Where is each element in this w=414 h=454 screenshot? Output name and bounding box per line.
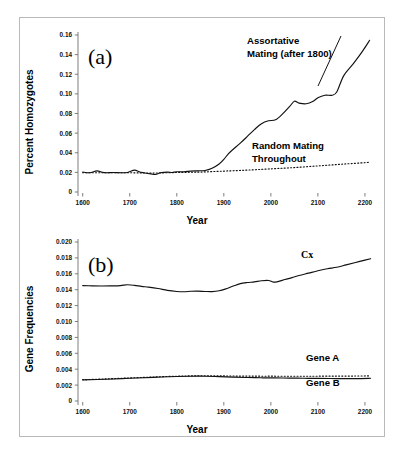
y-tick-label: 0.12 <box>60 71 73 78</box>
series-label-cx: Cx <box>301 249 313 260</box>
panel-a-annotation-random: Random Mating Throughout <box>252 140 324 164</box>
x-tick-label: 2000 <box>264 408 279 415</box>
annotation-line-2: Throughout <box>252 153 307 164</box>
x-tick-label: 1600 <box>76 199 91 206</box>
y-axis-tick-labels: 00.020.040.060.080.100.120.140.16 <box>60 31 73 195</box>
panel-a-annotation-assortative: Assortative Mating (after 1800) <box>247 35 332 59</box>
x-tick-label: 1800 <box>170 408 185 415</box>
y-tick-label: 0.06 <box>60 130 73 137</box>
annotation-line-1: Random Mating <box>252 140 324 151</box>
y-tick-label: 0.006 <box>56 350 72 357</box>
y-tick-label: 0.016 <box>56 270 72 277</box>
panel-a-series <box>83 40 370 174</box>
y-tick-label: 0.10 <box>60 90 73 97</box>
series-line <box>83 259 371 292</box>
x-tick-label: 1700 <box>123 199 138 206</box>
panel-b-svg: 00.0020.0040.0060.0080.0100.0120.0140.01… <box>0 224 414 439</box>
figure-root: 00.020.040.060.080.100.120.140.16 160017… <box>0 0 414 454</box>
y-tick-label: 0.14 <box>60 51 73 58</box>
series-label-gene-b: Gene B <box>306 377 340 388</box>
x-tick-label: 2200 <box>358 408 373 415</box>
x-tick-label: 1900 <box>217 199 232 206</box>
series-label-gene-a: Gene A <box>306 352 339 363</box>
y-tick-label: 0.014 <box>56 286 72 293</box>
y-tick-label: 0.04 <box>60 149 73 156</box>
x-tick-label: 1600 <box>76 408 91 415</box>
y-axis-tick-labels: 00.0020.0040.0060.0080.0100.0120.0140.01… <box>56 238 72 404</box>
x-tick-label: 2200 <box>358 199 373 206</box>
x-axis-tick-labels: 1600170018001900200021002200 <box>76 408 373 415</box>
x-tick-label: 2100 <box>311 199 326 206</box>
x-axis-ticks <box>83 193 365 197</box>
series-line <box>83 162 370 173</box>
y-tick-label: 0.012 <box>56 302 72 309</box>
series-line <box>83 40 370 174</box>
x-tick-label: 1700 <box>123 408 138 415</box>
x-axis-tick-labels: 1600170018001900200021002200 <box>76 199 373 206</box>
annotation-leader-line <box>318 36 341 86</box>
panel-b-letter: (b) <box>88 252 114 277</box>
y-tick-label: 0.004 <box>56 366 72 373</box>
panel-a-svg: 00.020.040.060.080.100.120.140.16 160017… <box>0 14 414 229</box>
y-axis-ticks <box>75 242 78 401</box>
y-axis-ticks <box>75 35 78 192</box>
y-tick-label: 0.02 <box>60 169 73 176</box>
x-axis-ticks <box>83 402 365 406</box>
y-tick-label: 0.16 <box>60 31 73 38</box>
y-tick-label: 0 <box>68 397 72 404</box>
y-tick-label: 0.08 <box>60 110 73 117</box>
y-tick-label: 0.010 <box>56 318 72 325</box>
annotation-line-1: Assortative <box>247 35 299 46</box>
y-tick-label: 0 <box>68 188 72 195</box>
y-tick-label: 0.008 <box>56 334 72 341</box>
chart-panel-a: 00.020.040.060.080.100.120.140.16 160017… <box>0 14 414 229</box>
panel-b-y-axis-title: Gene Frequencies <box>24 285 35 372</box>
panel-a-letter: (a) <box>88 44 112 69</box>
x-tick-label: 1900 <box>217 408 232 415</box>
x-tick-label: 2100 <box>311 408 326 415</box>
y-tick-label: 0.018 <box>56 254 72 261</box>
x-tick-label: 1800 <box>170 199 185 206</box>
x-tick-label: 2000 <box>264 199 279 206</box>
panel-a-y-axis-title: Percent Homozygotes <box>24 69 35 174</box>
y-tick-label: 0.002 <box>56 382 72 389</box>
chart-panel-b: 00.0020.0040.0060.0080.0100.0120.0140.01… <box>0 224 414 439</box>
annotation-line-2: Mating (after 1800) <box>247 48 332 59</box>
panel-b-x-axis-title: Year <box>186 424 207 435</box>
y-tick-label: 0.020 <box>56 238 72 245</box>
